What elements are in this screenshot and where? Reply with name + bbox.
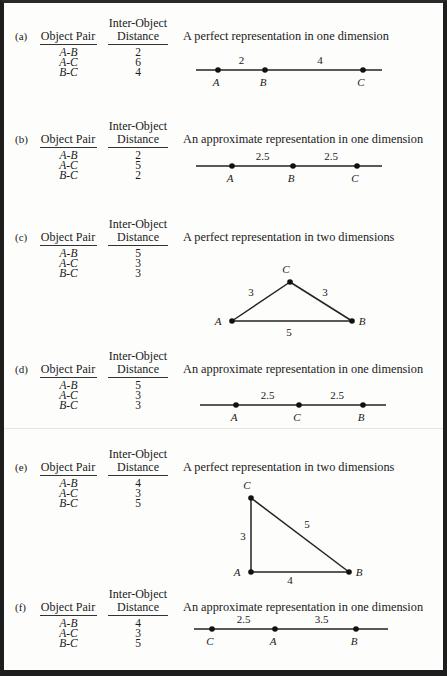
point-label-A: A bbox=[233, 566, 241, 578]
segment-distance-label: 2.5 bbox=[261, 389, 275, 401]
point-label-A: A bbox=[214, 315, 222, 327]
figure-a: ABC24 bbox=[196, 54, 382, 88]
segment-distance-label: 3.5 bbox=[315, 613, 329, 625]
edge-distance-label-AC: 3 bbox=[248, 286, 254, 298]
figure-d: ACB2.52.5 bbox=[200, 389, 386, 423]
segment-distance-label: 2.5 bbox=[237, 613, 251, 625]
point-A bbox=[272, 626, 278, 632]
point-label-A: A bbox=[230, 411, 238, 423]
point-A bbox=[229, 163, 235, 169]
edge-AC bbox=[232, 282, 290, 321]
edge-distance-label-AB: 4 bbox=[287, 574, 293, 586]
point-label-B: B bbox=[288, 172, 295, 184]
point-A bbox=[248, 569, 254, 575]
point-label-B: B bbox=[358, 411, 365, 423]
segment-distance-label: 2.5 bbox=[256, 150, 270, 162]
point-B bbox=[290, 163, 296, 169]
point-B bbox=[346, 569, 352, 575]
segment-distance-label: 4 bbox=[317, 54, 323, 66]
point-C bbox=[360, 67, 366, 73]
point-label-A: A bbox=[212, 76, 220, 88]
point-label-A: A bbox=[269, 635, 277, 647]
figure-e: ABC354 bbox=[233, 479, 363, 586]
point-label-B: B bbox=[356, 566, 363, 578]
point-label-B: B bbox=[359, 315, 366, 327]
point-A bbox=[215, 67, 221, 73]
figure-b: ABC2.52.5 bbox=[196, 150, 382, 184]
point-C bbox=[209, 626, 215, 632]
point-label-C: C bbox=[243, 479, 251, 491]
edge-CB bbox=[251, 498, 349, 572]
edge-distance-label-AC: 3 bbox=[240, 530, 246, 542]
segment-distance-label: 2.5 bbox=[324, 150, 338, 162]
point-label-C: C bbox=[293, 411, 301, 423]
edge-distance-label-CB: 5 bbox=[304, 518, 310, 530]
point-A bbox=[233, 402, 239, 408]
point-label-B: B bbox=[351, 635, 358, 647]
segment-distance-label: 2 bbox=[239, 54, 245, 66]
point-B bbox=[262, 67, 268, 73]
point-C bbox=[354, 163, 360, 169]
point-label-C: C bbox=[206, 635, 214, 647]
figure-f: CAB2.53.5 bbox=[194, 613, 388, 647]
edge-CB bbox=[290, 282, 352, 321]
point-A bbox=[229, 318, 235, 324]
point-label-A: A bbox=[226, 172, 234, 184]
diagrams-canvas: ABC24ABC2.52.5ABC335ACB2.52.5ABC354CAB2.… bbox=[0, 0, 447, 676]
point-C bbox=[296, 402, 302, 408]
point-B bbox=[349, 318, 355, 324]
edge-distance-label-AB: 5 bbox=[286, 326, 292, 338]
point-label-C: C bbox=[282, 263, 290, 275]
point-B bbox=[360, 402, 366, 408]
point-label-B: B bbox=[260, 76, 267, 88]
point-label-C: C bbox=[357, 76, 365, 88]
point-label-C: C bbox=[351, 172, 359, 184]
point-C bbox=[287, 279, 293, 285]
figure-c: ABC335 bbox=[214, 263, 366, 338]
edge-distance-label-CB: 3 bbox=[322, 286, 328, 298]
segment-distance-label: 2.5 bbox=[330, 389, 344, 401]
point-C bbox=[248, 495, 254, 501]
point-B bbox=[353, 626, 359, 632]
